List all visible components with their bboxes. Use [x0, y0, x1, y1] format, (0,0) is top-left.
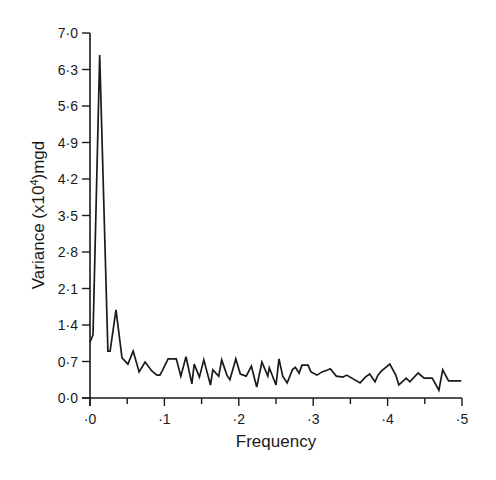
variance-series-line [90, 55, 461, 390]
y-axis-ticks: 0·00·71·42·12·83·54·24·95·66·37·0 [58, 25, 90, 406]
x-tick-label: ·1 [158, 411, 171, 427]
y-tick-label: 2·1 [58, 281, 78, 297]
x-tick-label: ·5 [456, 411, 469, 427]
y-tick-label: 7·0 [58, 25, 78, 41]
y-tick-label: 0·0 [58, 390, 78, 406]
y-tick-label: 4·2 [58, 171, 78, 187]
x-axis-ticks: ·0·1·2·3·4·5 [84, 398, 469, 427]
y-axis-title-main: Variance (x10 [29, 186, 48, 290]
y-tick-label: 6·3 [58, 62, 78, 78]
x-axis-title: Frequency [236, 432, 317, 451]
variance-frequency-chart: 0·00·71·42·12·83·54·24·95·66·37·0 ·0·1·2… [0, 0, 496, 480]
y-axis-title-unit: )mgd [29, 141, 48, 180]
x-tick-label: ·3 [307, 411, 320, 427]
y-axis-title: Variance (x104)mgd [28, 141, 48, 290]
x-tick-label: ·2 [233, 411, 246, 427]
y-tick-label: 1·4 [58, 317, 78, 333]
x-tick-label: ·4 [381, 411, 394, 427]
y-tick-label: 0·7 [58, 354, 78, 370]
y-tick-label: 2·8 [58, 244, 78, 260]
x-tick-label: ·0 [84, 411, 97, 427]
y-tick-label: 4·9 [58, 135, 78, 151]
y-tick-label: 5·6 [58, 98, 78, 114]
y-tick-label: 3·5 [58, 208, 78, 224]
